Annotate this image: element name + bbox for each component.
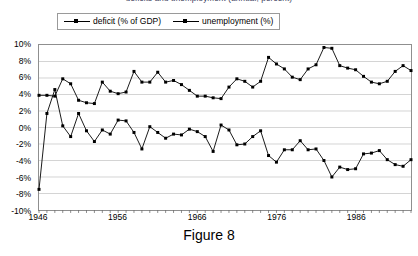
y-axis-tick-label: -2% bbox=[16, 140, 31, 149]
chart-legend: deficit (% of GDP) unemployment (%) bbox=[57, 13, 280, 30]
legend-marker-unemployment-icon bbox=[173, 18, 199, 25]
y-axis-tick-label: 0% bbox=[19, 123, 31, 132]
x-axis-tick-label: 1956 bbox=[108, 213, 127, 222]
legend-entry-deficit: deficit (% of GDP) bbox=[64, 17, 161, 26]
y-axis-tick-label: -4% bbox=[16, 157, 31, 166]
chart-title-text: deficits and unemployment (annual, perce… bbox=[126, 0, 292, 3]
legend-marker-deficit-icon bbox=[64, 18, 90, 25]
plot-area bbox=[38, 44, 412, 211]
y-axis-tick-label: 8% bbox=[19, 56, 31, 65]
y-axis-tick-label: 6% bbox=[19, 73, 31, 82]
x-axis-tick-label: 1976 bbox=[267, 213, 286, 222]
y-axis-tick-label: 2% bbox=[19, 107, 31, 116]
figure-caption: Figure 8 bbox=[0, 228, 418, 242]
legend-entry-unemployment: unemployment (%) bbox=[173, 17, 273, 26]
x-axis-tick-label: 1966 bbox=[188, 213, 207, 222]
chart-title-cropped: deficits and unemployment (annual, perce… bbox=[0, 0, 418, 7]
legend-label-unemployment: unemployment (%) bbox=[202, 17, 273, 26]
y-axis-tick-label: 4% bbox=[19, 90, 31, 99]
y-axis-labels: 10%8%6%4%2%0%-2%-4%-6%-8%-10% bbox=[0, 44, 35, 211]
x-axis-tick-label: 1986 bbox=[347, 213, 366, 222]
y-axis-tick-label: 10% bbox=[14, 40, 31, 49]
y-axis-tick-label: -6% bbox=[16, 173, 31, 182]
legend-label-deficit: deficit (% of GDP) bbox=[93, 17, 161, 26]
y-axis-tick-label: -8% bbox=[16, 190, 31, 199]
data-series-layer bbox=[39, 45, 411, 210]
x-axis-labels: 19461956196619761986 bbox=[38, 213, 412, 225]
x-axis-tick-label: 1946 bbox=[29, 213, 48, 222]
figure-container: deficits and unemployment (annual, perce… bbox=[0, 0, 418, 256]
